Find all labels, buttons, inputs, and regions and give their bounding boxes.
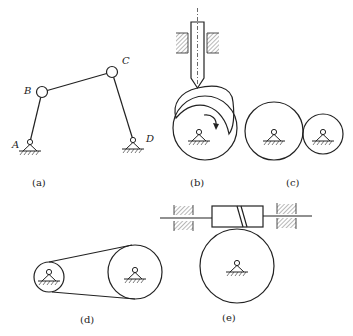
caption-b: (b)	[190, 177, 204, 188]
panel-e-worm-wheel: (e)	[160, 203, 312, 323]
guide-right	[207, 33, 219, 53]
bearing-right-top	[277, 204, 296, 214]
support-pulley-large-icon	[124, 267, 146, 283]
bearing-right-bottom	[277, 218, 296, 228]
support-gear-large-icon	[263, 129, 285, 145]
caption-d: (d)	[80, 314, 94, 325]
support-wheel-icon	[226, 260, 248, 276]
caption-c: (c)	[286, 177, 300, 188]
support-d-icon	[122, 137, 144, 153]
mechanism-figure: A B C D (a) (b) (c)	[0, 0, 353, 336]
label-d: D	[145, 133, 154, 144]
label-a: A	[11, 139, 19, 150]
label-b: B	[23, 85, 31, 96]
support-cam-icon	[188, 129, 210, 145]
panel-c-gear-pair: (c)	[245, 102, 343, 188]
link-ab	[30, 92, 42, 142]
bearing-left-top	[174, 206, 193, 215]
link-cd	[112, 72, 133, 140]
support-pulley-small-icon	[38, 269, 60, 285]
bearing-left-bottom	[174, 221, 193, 230]
joint-b	[37, 87, 48, 98]
panel-d-belt-drive: (d)	[34, 245, 162, 325]
belt-top	[49, 245, 132, 262]
cam-profile	[175, 86, 234, 134]
support-gear-small-icon	[312, 129, 334, 145]
link-bc	[42, 72, 112, 92]
panel-a-four-bar-linkage: A B C D (a)	[11, 55, 154, 188]
caption-a: (a)	[32, 177, 46, 188]
guide-left	[176, 33, 188, 53]
support-a-icon	[19, 139, 41, 155]
pulley-small	[34, 262, 64, 292]
panel-b-cam-follower: (b)	[173, 8, 237, 188]
joint-c	[107, 67, 118, 78]
caption-e: (e)	[222, 312, 236, 323]
label-c: C	[122, 55, 130, 66]
